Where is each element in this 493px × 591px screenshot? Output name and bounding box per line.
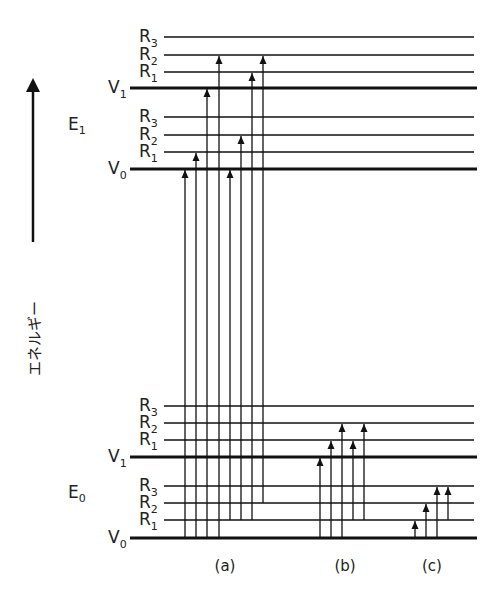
arrowhead-icon [339, 424, 346, 432]
arrowhead-icon [361, 424, 368, 432]
arrowhead-icon [445, 487, 452, 495]
group-label-a: (a) [215, 557, 236, 575]
arrowhead-icon [204, 89, 211, 97]
arrowhead-icon [412, 521, 419, 529]
state-label: E0 [68, 482, 86, 505]
level-label-v0: V0 [108, 158, 127, 182]
state-e1: E1V0R1R2R3V1R1R2R3 [68, 26, 477, 182]
arrowhead-icon [260, 56, 267, 64]
transition-group-a [182, 56, 267, 538]
transition-group-b [317, 424, 368, 538]
transitions [182, 56, 452, 538]
transition-group-c [412, 487, 452, 538]
energy-axis-arrowhead-icon [26, 78, 40, 92]
arrowhead-icon [328, 441, 335, 449]
arrowhead-icon [317, 458, 324, 466]
arrowhead-icon [193, 153, 200, 161]
arrowhead-icon [249, 73, 256, 81]
arrowhead-icon [350, 441, 357, 449]
level-label-v0: V0 [108, 527, 127, 551]
energy-level-diagram: エネルギー E1V0R1R2R3V1R1R2R3E0V0R1R2R3V1R1R2… [0, 0, 493, 591]
group-label-b: (b) [334, 557, 355, 575]
level-label-v1: V1 [108, 77, 127, 101]
level-label-v1: V1 [108, 446, 127, 470]
group-label-c: (c) [422, 557, 442, 575]
arrowhead-icon [216, 56, 223, 64]
group-labels: (a) (b) (c) [215, 557, 442, 575]
energy-axis: エネルギー [26, 78, 44, 376]
arrowhead-icon [423, 504, 430, 512]
state-label: E1 [68, 114, 86, 137]
energy-axis-label: エネルギー [26, 301, 44, 376]
arrowhead-icon [434, 487, 441, 495]
arrowhead-icon [182, 170, 189, 178]
arrowhead-icon [238, 136, 245, 144]
arrowhead-icon [227, 170, 234, 178]
electronic-states: E1V0R1R2R3V1R1R2R3E0V0R1R2R3V1R1R2R3 [68, 26, 477, 551]
